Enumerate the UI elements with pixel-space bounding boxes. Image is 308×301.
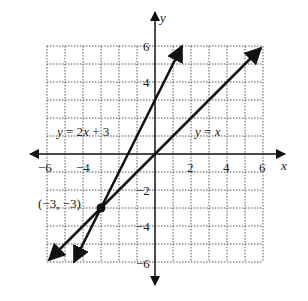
intersection-point: [97, 204, 106, 213]
line-label-y-equals-x: y = x: [193, 124, 221, 139]
x-tick-label: 2: [187, 160, 194, 175]
x-tick-label: −4: [76, 160, 90, 175]
point-label: (−3, −3): [38, 196, 81, 211]
coordinate-plane: x y −6 −4 2 4 6 6 4 −2 −4 −6 y = 2x + 3 …: [0, 0, 308, 301]
y-axis-label: y: [158, 10, 166, 25]
line-label-2x-plus-3: y = 2x + 3: [55, 124, 109, 139]
x-tick-label: 4: [223, 160, 230, 175]
y-tick-label: −4: [136, 219, 150, 234]
y-tick-label: −6: [136, 256, 150, 271]
x-tick-label: −6: [38, 160, 52, 175]
x-tick-label: 6: [259, 160, 266, 175]
x-axis-label: x: [280, 158, 287, 173]
y-tick-label: 6: [143, 39, 150, 54]
y-tick-label: 4: [143, 75, 150, 90]
y-tick-label: −2: [136, 183, 150, 198]
